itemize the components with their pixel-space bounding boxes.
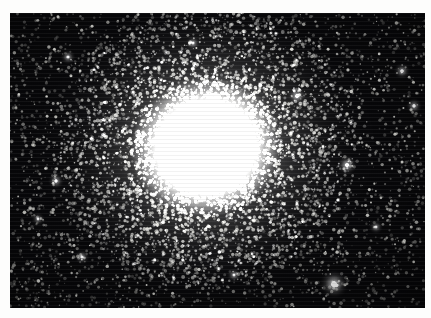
starfield-canvas [10,13,425,308]
page-canvas [0,0,431,318]
photo-caption [10,309,425,318]
globular-cluster-photograph [10,13,425,308]
